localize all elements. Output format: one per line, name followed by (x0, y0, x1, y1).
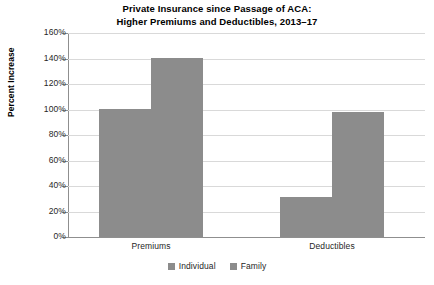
bar-premiums-individual (99, 109, 151, 237)
legend-swatch-icon (168, 263, 175, 270)
x-axis-label-premiums: Premiums (91, 241, 211, 251)
chart-title: Private Insurance since Passage of ACA: … (0, 3, 434, 28)
chart-legend: IndividualFamily (0, 261, 434, 271)
bar-deductibles-family (332, 112, 384, 237)
y-axis-tick-label: 0% (6, 231, 66, 241)
legend-item-family[interactable]: Family (230, 261, 267, 271)
y-axis-tick-label: 40% (6, 180, 66, 190)
y-axis-tick-label: 100% (6, 104, 66, 114)
y-axis-tick-label: 80% (6, 129, 66, 139)
y-axis-tick-label: 160% (6, 27, 66, 37)
legend-label: Family (241, 261, 267, 271)
legend-label: Individual (179, 261, 216, 271)
y-axis-tick-label: 140% (6, 53, 66, 63)
gridline (68, 237, 425, 238)
chart-title-line-1: Private Insurance since Passage of ACA: (0, 3, 434, 16)
gridline (68, 84, 425, 85)
y-axis-tick-label: 60% (6, 155, 66, 165)
y-axis-tick-label: 120% (6, 78, 66, 88)
gridline (68, 59, 425, 60)
x-axis-label-deductibles: Deductibles (272, 241, 392, 251)
bar-deductibles-individual (280, 197, 332, 237)
gridline (68, 33, 425, 34)
legend-item-individual[interactable]: Individual (168, 261, 216, 271)
bar-premiums-family (151, 58, 203, 237)
plot-area (68, 33, 425, 237)
y-axis-tick-label: 20% (6, 206, 66, 216)
chart-container: Private Insurance since Passage of ACA: … (0, 0, 434, 285)
legend-swatch-icon (230, 263, 237, 270)
